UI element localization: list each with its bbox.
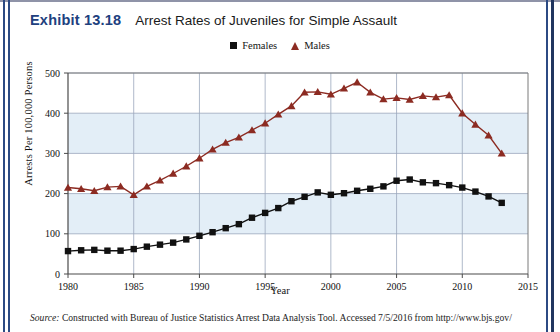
svg-text:0: 0 [55,269,60,280]
exhibit-number: Exhibit 13.18 [30,12,121,28]
svg-text:100: 100 [45,228,60,239]
svg-text:2015: 2015 [518,281,538,292]
legend-item-males: Males [291,40,330,51]
chart-legend: Females Males [0,40,560,51]
page-title: Arrest Rates of Juveniles for Simple Ass… [135,13,397,28]
svg-text:2010: 2010 [452,281,472,292]
svg-text:1990: 1990 [189,281,209,292]
source-text: Constructed with Bureau of Justice Stati… [59,312,511,323]
svg-text:1980: 1980 [58,281,78,292]
legend-label-males: Males [304,40,330,51]
line-plot: 0100200300400500198019851990199520002005… [0,58,560,303]
exhibit-figure: Exhibit 13.18 Arrest Rates of Juveniles … [0,0,560,332]
svg-text:300: 300 [45,148,60,159]
svg-text:1995: 1995 [255,281,275,292]
source-note: Source: Constructed with Bureau of Justi… [30,312,540,323]
svg-text:400: 400 [45,108,60,119]
svg-text:1985: 1985 [124,281,144,292]
svg-text:2005: 2005 [387,281,407,292]
square-marker-icon [230,42,237,49]
chart-area: Arrests Per 100,000 Persons Year 0100200… [0,58,560,303]
source-label: Source: [30,312,59,323]
svg-text:2000: 2000 [321,281,341,292]
legend-item-females: Females [230,40,277,51]
svg-text:500: 500 [45,68,60,79]
legend-label-females: Females [242,40,277,51]
triangle-marker-icon [291,42,299,50]
exhibit-header: Exhibit 13.18 Arrest Rates of Juveniles … [30,12,530,34]
top-rule [0,0,560,2]
svg-text:200: 200 [45,188,60,199]
